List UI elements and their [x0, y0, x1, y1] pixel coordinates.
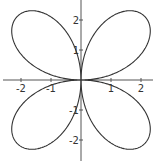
y-tick-label: 2 — [73, 15, 79, 26]
x-tick-label: -2 — [16, 83, 26, 94]
polar-rose-chart: -2-11221-1-2 — [0, 0, 153, 162]
y-tick-label: -1 — [69, 105, 79, 116]
x-tick-label: 2 — [138, 83, 144, 94]
x-tick-label: -1 — [46, 83, 56, 94]
y-tick-label: 1 — [73, 45, 79, 56]
x-tick-label: 1 — [108, 83, 114, 94]
y-tick-label: -2 — [69, 135, 79, 146]
